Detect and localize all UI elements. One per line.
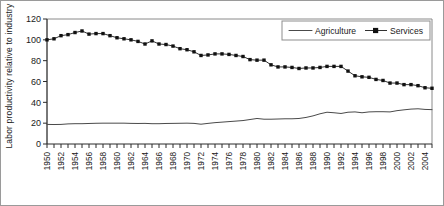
legend-label-services: Services: [390, 26, 423, 36]
y-axis-ticks: 020406080100120: [26, 14, 47, 149]
series-marker-services: [66, 33, 69, 36]
series-marker-services: [227, 53, 230, 56]
series-marker-services: [192, 50, 195, 53]
x-tick-label: 1952: [57, 152, 66, 171]
x-tick-label: 1950: [43, 152, 52, 171]
series-line-agriculture: [47, 109, 432, 125]
x-tick-label: 1976: [225, 152, 234, 171]
series-marker-services: [213, 52, 216, 55]
series-marker-services: [325, 65, 328, 68]
series-marker-services: [409, 83, 412, 86]
y-tick-label: 100: [26, 35, 41, 45]
chart-legend: AgricultureServices: [282, 21, 430, 40]
x-tick-label: 1958: [99, 152, 108, 171]
series-marker-services: [248, 58, 251, 61]
series-marker-services: [339, 65, 342, 68]
plot-area: 020406080100120 195019521954195619581960…: [17, 9, 441, 201]
series-marker-services: [59, 34, 62, 37]
series-marker-services: [150, 39, 153, 42]
series-marker-services: [290, 66, 293, 69]
series-marker-services: [122, 37, 125, 40]
series-marker-services: [374, 78, 377, 81]
x-tick-label: 2004: [421, 152, 430, 171]
series-marker-services: [136, 40, 139, 43]
x-tick-label: 1954: [71, 152, 80, 171]
legend-label-agriculture: Agriculture: [315, 26, 356, 36]
series-marker-services: [297, 67, 300, 70]
y-axis-title: Labor productivity relative to industry: [1, 1, 17, 151]
series-marker-services: [353, 74, 356, 77]
x-tick-label: 2000: [393, 152, 402, 171]
x-tick-label: 1972: [197, 152, 206, 171]
series-marker-services: [269, 63, 272, 66]
y-axis-title-label: Labor productivity relative to industry: [4, 3, 14, 148]
y-tick-label: 0: [36, 139, 41, 149]
series-marker-services: [388, 81, 391, 84]
x-tick-label: 1970: [183, 152, 192, 171]
series-marker-services: [262, 58, 265, 61]
series-marker-services: [430, 87, 433, 90]
series-marker-services: [276, 65, 279, 68]
series-marker-services: [45, 38, 48, 41]
x-tick-label: 2002: [407, 152, 416, 171]
x-tick-label: 1994: [351, 152, 360, 171]
legend-swatch-services-marker: [373, 28, 378, 33]
x-tick-label: 1964: [141, 152, 150, 171]
series-marker-services: [360, 75, 363, 78]
x-tick-label: 1966: [155, 152, 164, 171]
series-marker-services: [402, 83, 405, 86]
x-tick-label: 1980: [253, 152, 262, 171]
series-marker-services: [143, 42, 146, 45]
series-marker-services: [346, 69, 349, 72]
series-marker-services: [73, 31, 76, 34]
series-marker-services: [381, 79, 384, 82]
series-marker-services: [178, 47, 181, 50]
series-marker-services: [87, 32, 90, 35]
series-marker-services: [395, 81, 398, 84]
series-marker-services: [101, 32, 104, 35]
x-tick-label: 1986: [295, 152, 304, 171]
line-chart-svg: 020406080100120 195019521954195619581960…: [17, 9, 441, 201]
series-marker-services: [332, 65, 335, 68]
series-marker-services: [423, 86, 426, 89]
x-tick-label: 1974: [211, 152, 220, 171]
x-tick-label: 1978: [239, 152, 248, 171]
x-tick-label: 1968: [169, 152, 178, 171]
series-marker-services: [206, 53, 209, 56]
series-marker-services: [416, 84, 419, 87]
series-marker-services: [129, 38, 132, 41]
y-tick-label: 80: [31, 56, 41, 66]
series-marker-services: [283, 65, 286, 68]
series-marker-services: [52, 37, 55, 40]
series-marker-services: [234, 54, 237, 57]
series-marker-services: [185, 48, 188, 51]
series-marker-services: [311, 66, 314, 69]
series-marker-services: [108, 34, 111, 37]
series-marker-services: [220, 52, 223, 55]
series-marker-services: [115, 36, 118, 39]
data-series: [45, 29, 433, 124]
x-tick-label: 1984: [281, 152, 290, 171]
y-tick-label: 40: [31, 98, 41, 108]
series-marker-services: [199, 54, 202, 57]
x-tick-label: 1998: [379, 152, 388, 171]
y-tick-label: 120: [26, 14, 41, 24]
x-tick-label: 1982: [267, 152, 276, 171]
x-tick-label: 1988: [309, 152, 318, 171]
series-marker-services: [94, 32, 97, 35]
y-tick-label: 20: [31, 118, 41, 128]
series-marker-services: [80, 29, 83, 32]
x-tick-label: 1962: [127, 152, 136, 171]
x-tick-label: 1992: [337, 152, 346, 171]
x-tick-label: 1996: [365, 152, 374, 171]
series-marker-services: [164, 43, 167, 46]
x-tick-label: 1960: [113, 152, 122, 171]
series-marker-services: [304, 66, 307, 69]
series-marker-services: [318, 66, 321, 69]
y-tick-label: 60: [31, 77, 41, 87]
x-axis-ticks: 1950195219541956195819601962196419661968…: [43, 144, 432, 170]
series-marker-services: [157, 42, 160, 45]
chart-figure: Labor productivity relative to industry …: [0, 0, 444, 206]
series-marker-services: [367, 76, 370, 79]
x-tick-label: 1990: [323, 152, 332, 171]
